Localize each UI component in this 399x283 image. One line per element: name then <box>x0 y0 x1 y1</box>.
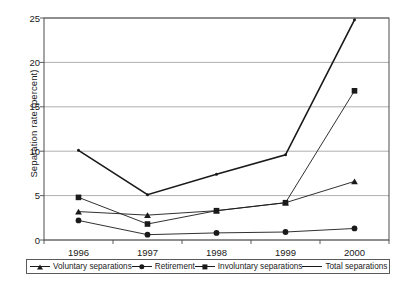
x-tick-label-1999: 1999 <box>275 247 296 258</box>
data-point <box>352 88 358 94</box>
legend-label-total-separations: Total separations <box>325 262 387 271</box>
data-point <box>215 173 218 176</box>
plus-marker-icon <box>302 262 322 271</box>
series-line <box>79 20 355 195</box>
legend-item-retirement[interactable]: Retirement <box>132 262 195 271</box>
data-point <box>145 221 151 227</box>
data-point <box>214 208 220 214</box>
legend-item-voluntary-separations[interactable]: Voluntary separations <box>30 262 132 271</box>
plot-area <box>0 0 399 283</box>
gridlines <box>40 18 389 240</box>
separation-rate-line-chart: Separation rate (percent) 25 20 15 10 5 … <box>0 0 399 283</box>
legend-item-total-separations[interactable]: Total separations <box>302 262 387 271</box>
data-point <box>145 232 151 238</box>
data-point <box>76 218 82 224</box>
x-tick-label-2000: 2000 <box>344 247 365 258</box>
x-tick-label-1997: 1997 <box>137 247 158 258</box>
data-point <box>146 193 149 196</box>
legend-item-involuntary-separations[interactable]: Involuntary separations <box>195 262 303 271</box>
circle-marker-icon <box>132 262 152 271</box>
data-point <box>284 153 287 156</box>
series-line <box>79 91 355 224</box>
legend-label-involuntary-separations: Involuntary separations <box>218 262 303 271</box>
data-point <box>353 18 356 21</box>
legend-label-voluntary-separations: Voluntary separations <box>53 262 132 271</box>
x-axis-ticks <box>44 240 389 244</box>
series-involuntary-separations <box>76 88 358 227</box>
data-point <box>352 226 358 232</box>
series-total-separations <box>77 18 356 196</box>
plot-border <box>44 18 389 240</box>
x-tick-label-1996: 1996 <box>68 247 89 258</box>
chart-legend: Voluntary separations Retirement Involun… <box>26 259 390 274</box>
legend-label-retirement: Retirement <box>155 262 195 271</box>
data-point <box>283 229 289 235</box>
data-series-layer <box>75 18 358 237</box>
series-retirement <box>76 218 358 238</box>
data-point <box>77 149 80 152</box>
data-point <box>351 179 358 185</box>
square-marker-icon <box>195 262 215 271</box>
data-point <box>214 230 220 236</box>
x-tick-label-1998: 1998 <box>206 247 227 258</box>
data-point <box>76 195 82 201</box>
plot-frame <box>44 18 389 240</box>
data-point <box>283 200 289 206</box>
triangle-marker-icon <box>30 262 50 271</box>
